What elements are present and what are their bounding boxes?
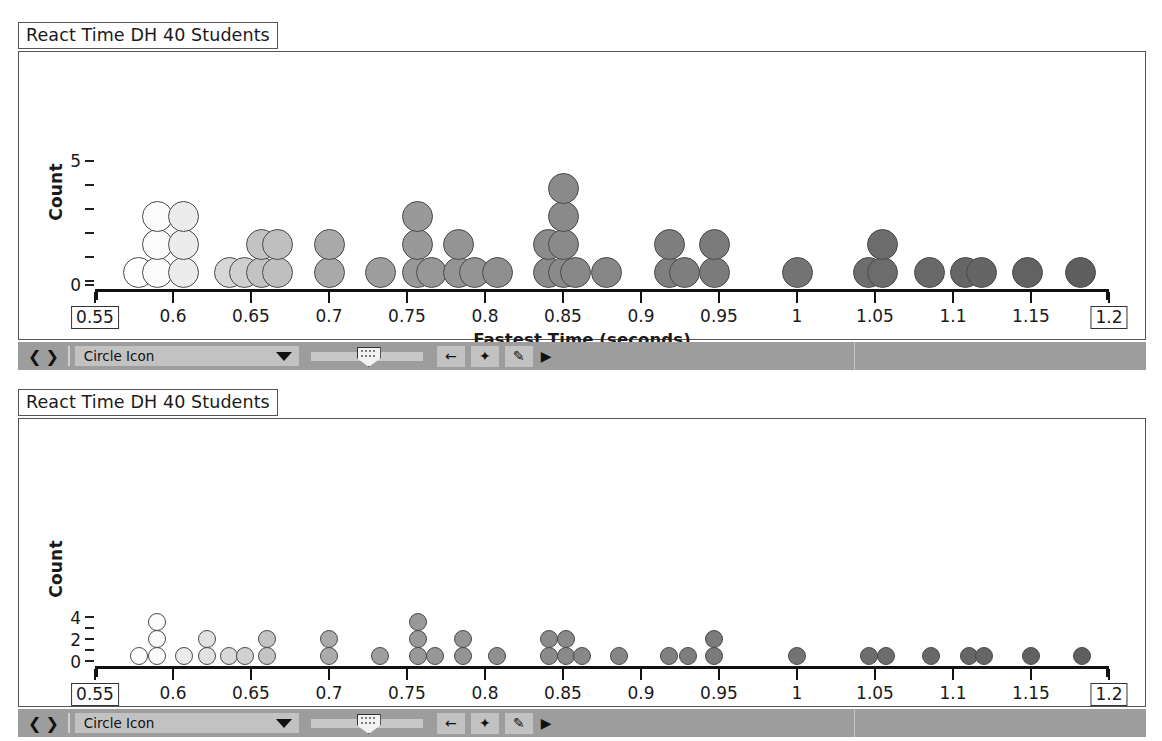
icon-type-dropdown[interactable]: Circle Icon: [75, 346, 299, 366]
nav-next-icon[interactable]: ❯: [45, 714, 58, 733]
x-axis-tick: [484, 292, 486, 303]
data-point-dot[interactable]: [1065, 257, 1096, 288]
plot-frame-bottom: 0.550.60.650.70.750.80.850.90.9511.051.1…: [18, 418, 1146, 707]
y-axis-tick-mark: [85, 616, 94, 618]
chevron-down-icon[interactable]: [276, 352, 292, 361]
panel-bottom: React Time DH 40 Students 0.550.60.650.7…: [18, 389, 1146, 741]
data-point-dot[interactable]: [443, 229, 474, 260]
data-point-dot[interactable]: [867, 257, 898, 288]
data-point-dot[interactable]: [148, 613, 166, 631]
data-point-dot[interactable]: [1022, 647, 1040, 665]
data-point-dot[interactable]: [1012, 257, 1043, 288]
data-point-dot[interactable]: [1073, 647, 1091, 665]
data-point-dot[interactable]: [557, 630, 575, 648]
data-point-dot[interactable]: [488, 647, 506, 665]
data-point-dot[interactable]: [548, 201, 579, 232]
data-point-dot[interactable]: [130, 647, 148, 665]
data-point-dot[interactable]: [168, 229, 199, 260]
chevron-down-icon[interactable]: [276, 719, 292, 728]
data-point-dot[interactable]: [409, 630, 427, 648]
star-button[interactable]: ✦: [471, 346, 499, 367]
y-axis-tick-mark: [85, 660, 94, 662]
data-point-dot[interactable]: [482, 257, 513, 288]
data-point-dot[interactable]: [175, 647, 193, 665]
data-point-dot[interactable]: [320, 647, 338, 665]
data-point-dot[interactable]: [860, 647, 878, 665]
nav-prev-icon[interactable]: ❮: [28, 347, 41, 366]
x-axis-tick: [1030, 669, 1032, 680]
data-point-dot[interactable]: [148, 630, 166, 648]
star-button[interactable]: ✦: [471, 713, 499, 734]
data-point-dot[interactable]: [454, 630, 472, 648]
data-point-dot[interactable]: [914, 257, 945, 288]
size-slider[interactable]: [311, 346, 423, 366]
data-point-dot[interactable]: [365, 257, 396, 288]
x-axis-tick-label: 0.85: [544, 306, 582, 326]
data-point-dot[interactable]: [320, 630, 338, 648]
data-point-dot[interactable]: [966, 257, 997, 288]
data-point-dot[interactable]: [699, 257, 730, 288]
data-point-dot[interactable]: [705, 630, 723, 648]
data-point-dot[interactable]: [258, 647, 276, 665]
data-point-dot[interactable]: [660, 647, 678, 665]
x-axis-tick: [640, 669, 642, 680]
data-point-dot[interactable]: [168, 257, 199, 288]
play-button[interactable]: ▶: [541, 715, 552, 731]
data-point-dot[interactable]: [148, 647, 166, 665]
slider-handle-dots-icon: [361, 350, 376, 358]
data-point-dot[interactable]: [573, 647, 591, 665]
data-point-dot[interactable]: [426, 647, 444, 665]
data-point-dot[interactable]: [610, 647, 628, 665]
data-point-dot[interactable]: [591, 257, 622, 288]
data-point-dot[interactable]: [699, 229, 730, 260]
data-point-dot[interactable]: [236, 647, 254, 665]
data-point-dot[interactable]: [877, 647, 895, 665]
data-point-dot[interactable]: [782, 257, 813, 288]
data-point-dot[interactable]: [548, 229, 579, 260]
data-point-dot[interactable]: [262, 257, 293, 288]
panel-title-top: React Time DH 40 Students: [18, 22, 278, 49]
back-arrow-button[interactable]: ←: [437, 713, 465, 734]
data-point-dot[interactable]: [409, 647, 427, 665]
toolbar-divider: [68, 346, 70, 366]
data-point-dot[interactable]: [409, 613, 427, 631]
data-point-dot[interactable]: [560, 257, 591, 288]
y-axis-tick-mark: [85, 627, 94, 629]
x-axis-tick-label: 1.1: [939, 306, 966, 326]
nav-next-icon[interactable]: ❯: [45, 347, 58, 366]
data-point-dot[interactable]: [922, 647, 940, 665]
data-point-dot[interactable]: [198, 647, 216, 665]
data-point-dot[interactable]: [975, 647, 993, 665]
data-point-dot[interactable]: [402, 229, 433, 260]
plot-area-bottom: 0.550.60.650.70.750.80.850.90.9511.051.1…: [19, 419, 1145, 706]
data-point-dot[interactable]: [867, 229, 898, 260]
data-point-dot[interactable]: [454, 647, 472, 665]
data-point-dot[interactable]: [258, 630, 276, 648]
back-arrow-button[interactable]: ←: [437, 346, 465, 367]
data-point-dot[interactable]: [198, 630, 216, 648]
data-point-dot[interactable]: [371, 647, 389, 665]
nav-prev-icon[interactable]: ❮: [28, 714, 41, 733]
pencil-button[interactable]: ✎: [505, 346, 533, 367]
data-point-dot[interactable]: [168, 201, 199, 232]
nav-arrows[interactable]: ❮ ❯: [24, 347, 63, 366]
data-point-dot[interactable]: [654, 229, 685, 260]
icon-type-dropdown[interactable]: Circle Icon: [75, 713, 299, 733]
data-point-dot[interactable]: [679, 647, 697, 665]
data-point-dot[interactable]: [669, 257, 700, 288]
size-slider[interactable]: [311, 713, 423, 733]
data-point-dot[interactable]: [540, 647, 558, 665]
data-point-dot[interactable]: [705, 647, 723, 665]
data-point-dot[interactable]: [314, 257, 345, 288]
data-point-dot[interactable]: [402, 201, 433, 232]
play-button[interactable]: ▶: [541, 348, 552, 364]
pencil-button[interactable]: ✎: [505, 713, 533, 734]
data-point-dot[interactable]: [788, 647, 806, 665]
nav-arrows[interactable]: ❮ ❯: [24, 714, 63, 733]
data-point-dot[interactable]: [548, 173, 579, 204]
data-point-dot[interactable]: [314, 229, 345, 260]
data-point-dot[interactable]: [262, 229, 293, 260]
data-point-dot[interactable]: [540, 630, 558, 648]
x-axis-tick: [406, 292, 408, 303]
x-axis-tick: [796, 292, 798, 303]
